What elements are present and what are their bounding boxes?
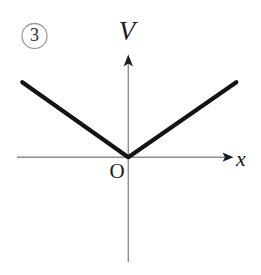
x-axis-label: x (236, 148, 246, 170)
v-shaped-curve (22, 82, 236, 157)
figure-index-badge-label: 3 (22, 26, 47, 44)
y-axis-label: V (111, 18, 143, 45)
origin-label: O (106, 161, 128, 182)
figure-container: 3 V x O (0, 0, 261, 275)
